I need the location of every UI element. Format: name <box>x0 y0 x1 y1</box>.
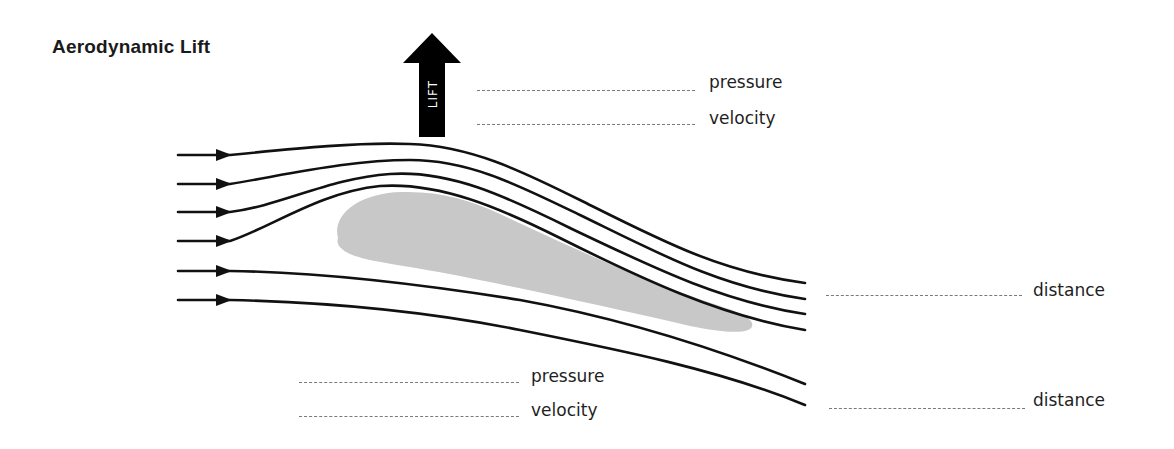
top-pressure-label: pressure <box>709 74 782 91</box>
arrow-right-icon <box>216 294 232 306</box>
arrow-right-icon <box>216 235 232 247</box>
arrow-right-icon <box>216 265 232 277</box>
arrow-right-icon <box>216 149 232 161</box>
bottom-velocity-leader <box>299 416 519 417</box>
bottom-pressure-label: pressure <box>531 368 604 385</box>
upper-distance-leader <box>826 295 1022 296</box>
top-velocity-leader <box>477 124 695 125</box>
arrow-icon-group <box>216 149 232 306</box>
arrow-right-icon <box>216 178 232 190</box>
lift-label: LIFT <box>426 74 440 114</box>
lower-distance-label: distance <box>1033 392 1105 409</box>
bottom-pressure-leader <box>299 382 519 383</box>
top-velocity-label: velocity <box>709 110 775 127</box>
bottom-velocity-label: velocity <box>531 402 597 419</box>
lower-distance-leader <box>829 408 1025 409</box>
arrow-right-icon <box>216 206 232 218</box>
top-pressure-leader <box>477 90 695 91</box>
upper-distance-label: distance <box>1033 282 1105 299</box>
